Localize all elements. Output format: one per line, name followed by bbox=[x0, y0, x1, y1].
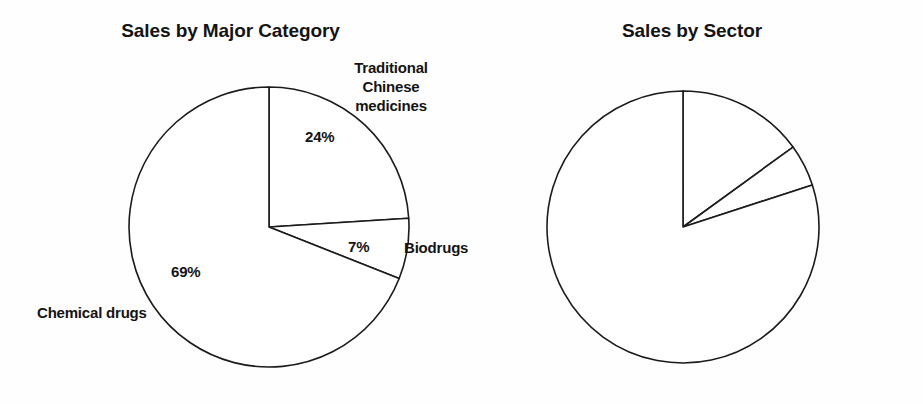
slice-label-line: Traditional bbox=[330, 58, 452, 77]
pie-chart-sector bbox=[461, 0, 923, 404]
slice-value-traditional-chinese-medicines: 24% bbox=[305, 128, 334, 145]
slice-label-chemical-drugs: Chemical drugs bbox=[37, 303, 147, 322]
figure-canvas: Sales by Major Category Traditional Chin… bbox=[0, 0, 923, 404]
slice-label-traditional-chinese-medicines: Traditional Chinese medicines bbox=[330, 58, 452, 115]
slice-label-line: Chinese bbox=[330, 77, 452, 96]
slice-value-biodrugs: 7% bbox=[348, 238, 369, 255]
slice-label-line: medicines bbox=[330, 96, 452, 115]
slice-value-chemical-drugs: 69% bbox=[171, 263, 200, 280]
chart-sales-by-major-category: Sales by Major Category Traditional Chin… bbox=[0, 0, 461, 404]
slice-label-biodrugs: Biodrugs bbox=[404, 238, 468, 257]
chart-sales-by-sector: Sales by Sector Retail pharmacies 15% Ho… bbox=[461, 0, 923, 404]
